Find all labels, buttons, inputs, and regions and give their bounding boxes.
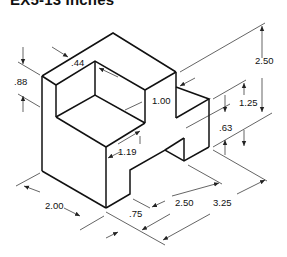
dim-325: 3.25: [213, 198, 232, 208]
dim-200: 2.00: [45, 201, 64, 211]
dim-250-width: 2.50: [175, 198, 194, 208]
dim-119: 1.19: [118, 147, 137, 157]
object-lines: [42, 33, 209, 208]
dim-044: .44: [71, 58, 84, 68]
dim-100: 1.00: [152, 96, 171, 106]
dimension-lines: [16, 23, 272, 245]
dim-125: 1.25: [239, 98, 258, 108]
dim-063: .63: [219, 123, 232, 133]
isometric-drawing: [0, 0, 287, 257]
dim-088: .88: [14, 77, 27, 87]
dim-250-height: 2.50: [255, 56, 274, 66]
dim-075: .75: [129, 209, 142, 219]
